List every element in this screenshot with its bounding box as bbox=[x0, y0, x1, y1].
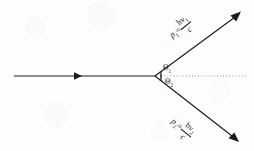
upper-angle-label: Θ1 bbox=[163, 64, 171, 74]
upper-angle-subscript: 1 bbox=[168, 68, 171, 74]
incident-ray-arrow-icon bbox=[74, 72, 82, 79]
diagram-canvas bbox=[0, 0, 254, 151]
lower-angle-subscript: 2 bbox=[170, 82, 173, 88]
scattering-diagram: p1=hν1c p2=hν2c Θ1 Θ2 bbox=[0, 0, 254, 151]
upper-ray-arrow-icon bbox=[231, 12, 242, 22]
lower-angle-label: Θ2 bbox=[165, 78, 173, 88]
